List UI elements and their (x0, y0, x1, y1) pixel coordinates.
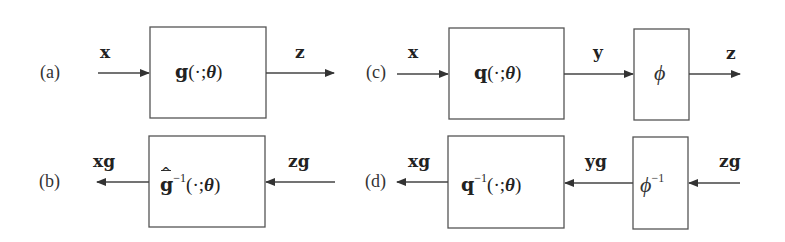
signal-z-a: z (295, 44, 305, 61)
fn-close: ) (515, 62, 521, 83)
phi-symbol: ϕ (640, 172, 651, 197)
signal-z-c: z (726, 45, 736, 62)
signal-xg-d: xg (408, 153, 430, 170)
fn-close: ) (216, 61, 222, 82)
block-g-hat-inverse-label: ^g−1(·;θ) (160, 172, 220, 194)
block-diagram-canvas (0, 0, 785, 242)
fn-name-g: g (175, 60, 188, 82)
fn-close: ) (515, 174, 521, 195)
fn-args: (·; (487, 62, 505, 83)
block-q-label: q(·;θ) (474, 63, 521, 82)
theta-symbol: θ (505, 174, 515, 195)
panel-label-d: (d) (365, 172, 386, 190)
panel-label-c: (c) (366, 63, 386, 81)
fn-args: (·; (186, 174, 204, 195)
block-q-inverse-label: q−1(·;θ) (461, 172, 521, 194)
fn-superscript: −1 (474, 171, 487, 185)
fn-name-q: q (461, 173, 474, 195)
signal-yg-d: yg (585, 153, 607, 170)
fn-args: (·; (487, 174, 505, 195)
signal-zg-d: zg (719, 153, 741, 170)
phi-superscript: −1 (651, 171, 664, 185)
panel-label-a: (a) (40, 63, 60, 81)
signal-x-a: x (100, 44, 110, 61)
signal-zg-b: zg (288, 153, 310, 170)
fn-superscript: −1 (173, 171, 186, 185)
fn-close: ) (214, 174, 220, 195)
block-phi-label: ϕ (654, 62, 665, 84)
block-g-label: g(·;θ) (175, 62, 222, 81)
theta-symbol: θ (505, 62, 515, 83)
theta-symbol: θ (204, 174, 214, 195)
theta-symbol: θ (206, 61, 216, 82)
panel-label-b: (b) (39, 172, 60, 190)
signal-y-c: y (593, 44, 603, 61)
hat-accent: ^ (160, 166, 172, 180)
signal-xg-b: xg (93, 153, 115, 170)
fn-name-q: q (474, 61, 487, 83)
signal-x-c: x (408, 44, 418, 61)
block-phi-inverse-label: ϕ−1 (640, 172, 664, 196)
g-hat: ^g (160, 175, 173, 194)
fn-args: (·; (188, 61, 206, 82)
